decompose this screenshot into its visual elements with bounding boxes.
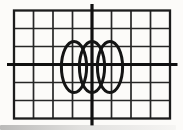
- scanned-figure: [0, 0, 183, 130]
- oscilloscope-grid-diagram: [0, 0, 183, 130]
- trace-ellipse: [97, 41, 122, 92]
